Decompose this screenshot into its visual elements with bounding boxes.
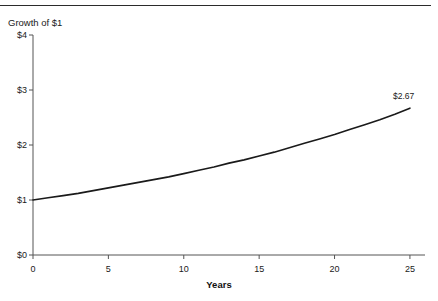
growth-line (33, 108, 410, 200)
plot-area (0, 0, 438, 301)
x-tick-label: 5 (93, 264, 123, 274)
x-tick-label: 15 (244, 264, 274, 274)
x-tick-label: 20 (320, 264, 350, 274)
x-axis-title: Years (0, 279, 438, 290)
y-tick-label: $4 (1, 30, 27, 40)
growth-of-dollar-chart: Growth of $1 $0$1$2$3$4 0510152025 $2.67… (0, 0, 438, 301)
x-tick-label: 0 (18, 264, 48, 274)
y-tick-label: $3 (1, 85, 27, 95)
x-tick-label: 10 (169, 264, 199, 274)
y-tick-label: $1 (1, 195, 27, 205)
y-tick-label: $2 (1, 140, 27, 150)
y-tick-label: $0 (1, 250, 27, 260)
x-tick-label: 25 (395, 264, 425, 274)
data-point-label: $2.67 (393, 91, 414, 101)
